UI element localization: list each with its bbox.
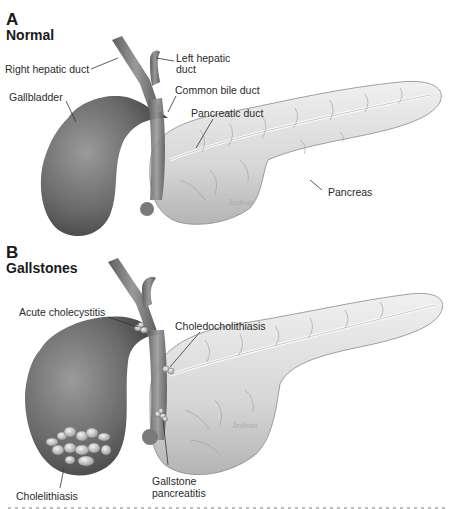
panel-a-title: Normal — [6, 27, 54, 43]
left-hepatic-duct-shape-b — [142, 277, 156, 308]
duodenal-papilla-shape — [140, 202, 154, 216]
artist-signature-a: Jaybota — [228, 198, 253, 207]
label-gallstone-pancreatitis-line1: Gallstone — [152, 475, 196, 487]
clipped-caption-line — [8, 503, 448, 509]
label-left-hepatic-duct-line2: duct — [176, 63, 196, 75]
panel-b-illustration: Jaybota — [25, 258, 443, 488]
panel-b-title: Gallstones — [6, 260, 78, 276]
artist-signature-b: Jaybota — [232, 421, 257, 430]
label-choledocholithiasis: Choledocholithiasis — [175, 320, 265, 332]
label-common-bile-duct: Common bile duct — [175, 84, 260, 96]
duodenal-papilla-shape-b — [142, 429, 158, 445]
panel-a-illustration: Jaybota — [41, 36, 441, 236]
label-right-hepatic-duct: Right hepatic duct — [5, 63, 89, 75]
label-pancreatic-duct: Pancreatic duct — [191, 107, 263, 119]
left-hepatic-duct-shape — [150, 50, 160, 86]
label-acute-cholecystitis: Acute cholecystitis — [19, 306, 105, 318]
label-gallstone-pancreatitis-line2: pancreatitis — [152, 487, 206, 499]
label-cholelithiasis: Cholelithiasis — [16, 490, 78, 502]
label-gallbladder: Gallbladder — [9, 91, 63, 103]
label-pancreas: Pancreas — [328, 186, 372, 198]
anatomy-illustration: Jaybota — [0, 0, 452, 509]
